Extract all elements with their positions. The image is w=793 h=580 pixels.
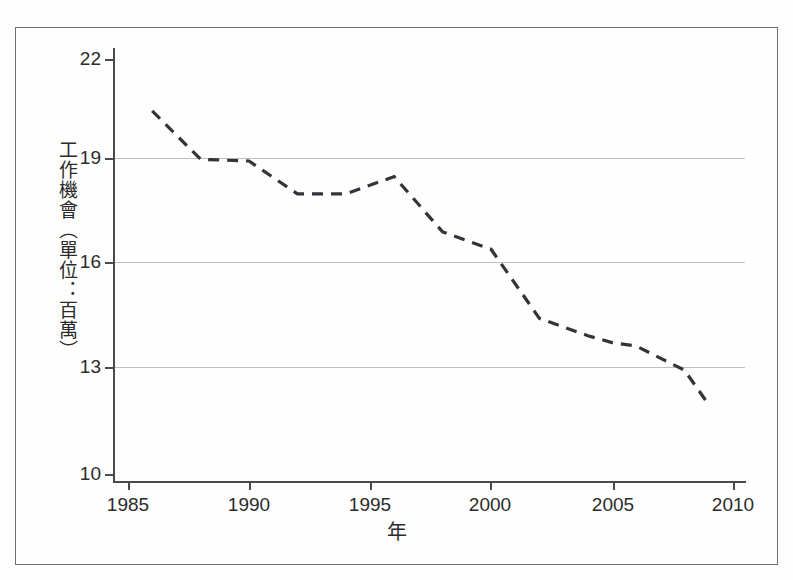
x-tick-mark-2010	[733, 481, 735, 490]
x-tick-label-1985: 1985	[93, 494, 163, 516]
y-tick-mark-13	[105, 367, 114, 369]
x-tick-label-2005: 2005	[578, 494, 648, 516]
y-tick-mark-22	[105, 59, 114, 61]
y-tick-mark-10	[105, 474, 114, 476]
x-tick-label-1990: 1990	[214, 494, 284, 516]
y-tick-label-22: 22	[55, 48, 101, 70]
y-axis-title: 工作機會（單位：百萬）	[46, 140, 76, 360]
x-tick-label-2000: 2000	[455, 494, 525, 516]
y-axis-line	[113, 48, 115, 482]
x-tick-mark-1985	[128, 481, 130, 490]
y-tick-mark-19	[105, 158, 114, 160]
chart-figure: 22 19 16 13 10 1985 1990 1995 2000 2005 …	[0, 0, 793, 580]
x-tick-label-2010: 2010	[698, 494, 768, 516]
x-tick-mark-1995	[370, 481, 372, 490]
x-tick-mark-1990	[249, 481, 251, 490]
x-tick-mark-2005	[613, 481, 615, 490]
x-axis-line	[113, 481, 746, 483]
x-tick-label-1995: 1995	[335, 494, 405, 516]
x-axis-title: 年	[0, 516, 793, 545]
gridline-19	[113, 158, 745, 159]
x-tick-mark-2000	[490, 481, 492, 490]
gridline-13	[113, 367, 745, 368]
gridline-16	[113, 262, 745, 263]
y-tick-mark-16	[105, 262, 114, 264]
y-tick-label-10: 10	[55, 463, 101, 485]
plot-area	[113, 48, 745, 480]
